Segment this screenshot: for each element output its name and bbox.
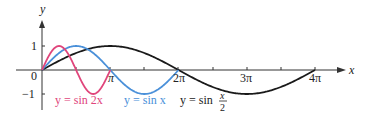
x-tick-pi: π	[108, 71, 115, 85]
y-axis-arrow-icon	[39, 20, 45, 28]
y-tick-1: 1	[31, 39, 37, 53]
x-tick-3pi: 3π	[240, 71, 252, 85]
x-axis-label: x	[348, 63, 355, 77]
legend-frac-den: 2	[220, 102, 225, 113]
sine-chart: y x 0 1 −1 π 2π 3π 4π y = sin 2x y = sin…	[0, 0, 370, 121]
legend-sin-half-x: y = sin	[180, 93, 213, 107]
x-tick-4pi: 4π	[309, 71, 321, 85]
x-axis-arrow-icon	[337, 67, 346, 73]
legend-sin-x: y = sin x	[124, 93, 166, 107]
y-tick-neg1: −1	[22, 87, 35, 101]
origin-label: 0	[31, 69, 37, 83]
x-tick-2pi: 2π	[173, 71, 185, 85]
y-axis-label: y	[39, 2, 46, 16]
legend-sin-2x: y = sin 2x	[55, 93, 103, 107]
legend-frac-num: x	[219, 90, 225, 101]
